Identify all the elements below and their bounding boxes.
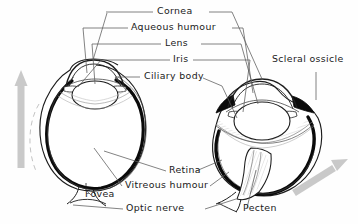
leader-optic-nerve-right	[205, 199, 236, 209]
label-lens: Lens	[165, 38, 188, 47]
label-cornea: Cornea	[157, 6, 193, 15]
eye-diagram-canvas	[0, 0, 358, 224]
left-lens	[72, 81, 118, 109]
label-scleral-ossicle: Scleral ossicle	[272, 54, 344, 63]
right-eye-diagram	[213, 79, 322, 212]
label-vitreous-humour: Vitreous humour	[125, 180, 208, 189]
left-eye-axis-arrow	[15, 70, 28, 168]
leader-cornea-right-tip	[232, 12, 262, 79]
eye-anatomy-figure: Cornea Aqueous humour Lens Iris Ciliary …	[0, 0, 358, 224]
label-fovea: Fovea	[85, 189, 115, 198]
label-retina: Retina	[169, 165, 201, 174]
label-pecten: Pecten	[243, 203, 277, 212]
right-lens	[234, 102, 290, 140]
leader-cornea-left-tip	[93, 13, 107, 60]
right-optic-nerve-lower	[236, 199, 241, 212]
leader-optic-nerve-left	[73, 205, 123, 209]
label-aqueous-humour: Aqueous humour	[131, 22, 216, 31]
left-eye-curvature-guide	[30, 104, 39, 171]
label-optic-nerve: Optic nerve	[126, 203, 184, 212]
label-ciliary-body: Ciliary body	[144, 71, 204, 80]
label-iris: Iris	[173, 54, 189, 63]
left-optic-nerve-base	[70, 199, 106, 204]
leader-ciliary-right	[203, 78, 222, 86]
right-optic-nerve-base	[218, 203, 237, 212]
